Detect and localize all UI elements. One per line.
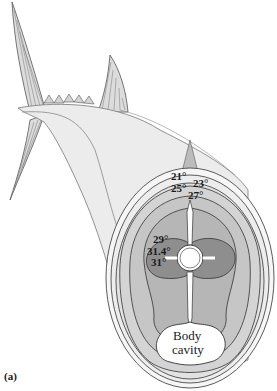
dorsal-fin bbox=[98, 55, 128, 112]
temp-label-31: 31° bbox=[151, 256, 166, 268]
temp-label-29: 29° bbox=[153, 233, 168, 245]
temp-label-25: 25° bbox=[171, 182, 186, 194]
temp-label-23: 23° bbox=[193, 177, 208, 189]
panel-label: (a) bbox=[4, 370, 17, 382]
caudal-fin bbox=[10, 2, 44, 200]
tuna-diagram: 21° 23° 25° 27° 29° 31.4° 31° Body cavit… bbox=[0, 0, 277, 391]
temp-label-21: 21° bbox=[171, 170, 186, 182]
body-cavity-label-line1: Body bbox=[173, 328, 202, 343]
body-cavity-label-line2: cavity bbox=[172, 342, 204, 357]
temp-label-27: 27° bbox=[188, 189, 203, 201]
